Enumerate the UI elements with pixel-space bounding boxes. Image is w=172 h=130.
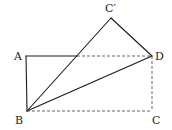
label-a: A: [13, 50, 23, 63]
label-b: B: [15, 114, 23, 127]
label-c: C: [152, 114, 160, 127]
fold-diagram: A B C D C′: [0, 0, 172, 130]
segment-c-prime-d: [111, 18, 152, 56]
segment-bd-fold-line: [27, 56, 152, 111]
segment-ab: [26, 56, 27, 111]
segment-bc-prime: [27, 18, 111, 111]
label-c-prime: C′: [105, 2, 116, 15]
label-d: D: [155, 50, 164, 63]
